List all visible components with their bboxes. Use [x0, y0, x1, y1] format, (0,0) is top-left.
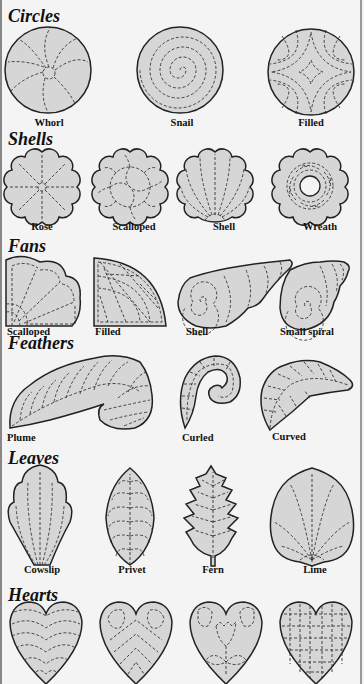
section-title-circles: Circles — [8, 6, 60, 27]
feather-curled-icon — [181, 356, 241, 428]
label-feather-curled: Curled — [182, 432, 214, 443]
label-shell-wreath: Wreath — [303, 221, 337, 232]
leaf-lime-icon — [270, 468, 353, 566]
label-fan-scalloped: Scalloped — [7, 326, 50, 337]
label-fan-filled: Filled — [95, 326, 121, 337]
section-title-fans: Fans — [8, 236, 46, 257]
label-feather-plume: Plume — [7, 432, 36, 443]
label-fan-shell: Shell — [186, 326, 208, 337]
feather-curved-icon — [261, 361, 353, 430]
label-feather-curved: Curved — [272, 431, 306, 442]
circle-snail-icon — [137, 27, 223, 113]
section-title-hearts: Hearts — [8, 585, 58, 606]
circle-whorl-icon — [5, 27, 91, 113]
label-shell-shell: Shell — [213, 221, 235, 232]
label-shell-scalloped: Scalloped — [112, 221, 155, 232]
fan-scalloped-icon — [6, 256, 80, 326]
label-circle-whorl: Whorl — [34, 117, 63, 128]
heart-flower-icon — [190, 602, 262, 684]
label-leaf-privet: Privet — [118, 564, 145, 575]
label-fan-small-spiral: Small spiral — [280, 326, 334, 337]
fan-shell-icon — [178, 260, 292, 335]
feather-plume-icon — [10, 356, 153, 429]
section-title-shells: Shells — [8, 129, 53, 150]
fan-filled-icon — [94, 258, 166, 326]
label-leaf-cowslip: Cowslip — [24, 564, 60, 575]
label-leaf-lime: Lime — [303, 564, 326, 575]
label-circle-snail: Snail — [171, 117, 194, 128]
label-circle-filled: Filled — [298, 117, 324, 128]
shell-rose-icon — [4, 149, 80, 225]
leaf-fern-icon — [184, 466, 238, 566]
leaf-privet-icon — [106, 468, 154, 565]
shell-scalloped-icon — [92, 149, 168, 225]
heart-lines-icon — [10, 602, 82, 684]
label-leaf-fern: Fern — [202, 564, 224, 575]
label-shell-rose: Rose — [31, 221, 53, 232]
section-title-leaves: Leaves — [8, 448, 59, 469]
leaf-cowslip-icon — [8, 465, 72, 565]
heart-chevron-icon — [100, 602, 172, 684]
circle-filled-icon — [268, 29, 354, 115]
heart-grid-icon — [280, 602, 352, 684]
shell-wreath-icon — [272, 149, 348, 225]
shell-shell-icon — [177, 149, 253, 222]
